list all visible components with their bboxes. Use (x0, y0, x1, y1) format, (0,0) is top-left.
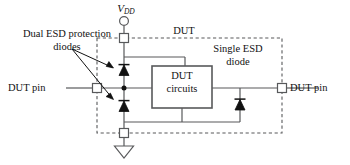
dut-pin-right-terminal-square (278, 84, 287, 93)
vdd-open-circle-node (120, 17, 129, 26)
single-esd-diode-triangle-icon (235, 100, 245, 111)
label-dut-pin-right: DUT pin (290, 82, 346, 94)
label-single-esd-diode: Single ESD diode (212, 43, 264, 68)
label-vdd: VDD (108, 3, 144, 18)
label-dut-pin-left: DUT pin (8, 82, 64, 94)
esd-diode-lower-triangle-icon (119, 101, 129, 112)
dut-pin-left-terminal-square (93, 84, 102, 93)
label-vdd-symbol: V (117, 2, 124, 14)
esd-diode-upper-triangle-icon (119, 65, 129, 76)
ground-triangle-icon (115, 146, 134, 158)
label-dual-esd-protection-diodes: Dual ESD protection diodes (8, 28, 126, 53)
label-dut-circuits-line2: circuits (167, 83, 198, 94)
label-dut-top: DUT (158, 25, 210, 37)
label-dut-circuits-line1: DUT (171, 70, 193, 81)
figure-root: Dual ESD protection diodes VDD DUT Singl… (0, 0, 350, 165)
label-dut-circuits: DUTcircuits (154, 70, 210, 95)
gnd-terminal-square (120, 129, 129, 138)
label-vdd-subscript: DD (124, 7, 135, 16)
pin-node-junction-dot (122, 86, 127, 91)
